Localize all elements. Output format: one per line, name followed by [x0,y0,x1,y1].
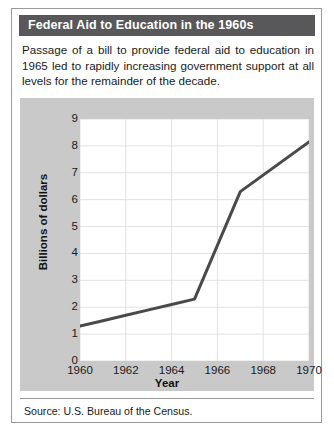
plot-area [80,119,309,361]
y-tick-label: 5 [62,221,78,233]
x-axis-title: Year [20,377,314,389]
line-chart-svg [80,119,309,361]
y-tick-label: 7 [62,167,78,179]
y-tick-label: 3 [62,274,78,286]
y-axis-tick-labels: 0123456789 [60,98,78,391]
y-tick-label: 1 [62,328,78,340]
grid-lines [80,119,309,361]
data-series-line [80,142,309,326]
y-axis-title: Billions of dollars [37,142,49,302]
y-tick-label: 4 [62,247,78,259]
y-tick-label: 9 [62,113,78,125]
source-note: Source: U.S. Bureau of the Census. [24,405,192,417]
intro-paragraph: Passage of a bill to provide federal aid… [22,42,314,89]
y-tick-label: 6 [62,194,78,206]
x-tick-label: 1970 [296,364,322,376]
figure-root: Federal Aid to Education in the 1960s Pa… [0,0,334,440]
page-title: Federal Aid to Education in the 1960s [28,18,254,32]
figure-card: Federal Aid to Education in the 1960s Pa… [11,8,322,423]
title-bar: Federal Aid to Education in the 1960s [19,15,315,36]
x-tick-label: 1960 [67,364,93,376]
x-tick-label: 1966 [205,364,231,376]
x-tick-label: 1964 [159,364,185,376]
x-tick-label: 1962 [113,364,139,376]
source-box: Source: U.S. Bureau of the Census. [20,398,314,423]
x-tick-label: 1968 [250,364,276,376]
y-tick-label: 2 [62,301,78,313]
chart-band: 0123456789 Billions of dollars 196019621… [20,98,314,391]
y-tick-label: 8 [62,140,78,152]
